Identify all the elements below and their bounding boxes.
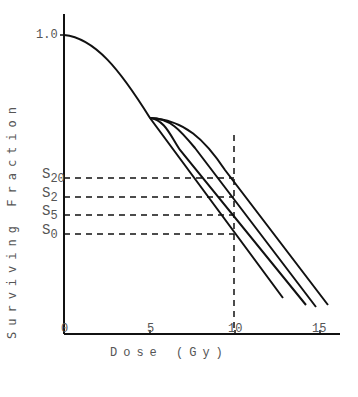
s2-label: S2 (42, 185, 58, 205)
y-tick-label-1: 1.0 (36, 28, 58, 42)
s20-label: S20 (42, 166, 65, 186)
s0-label: S0 (42, 222, 58, 242)
curve-s2 (150, 118, 316, 307)
x-tick-label-15: 15 (312, 322, 326, 336)
curve-s0 (64, 35, 283, 298)
x-axis-title: Dose (Gy) (110, 346, 229, 360)
y-axis-title-text: Surviving Fraction (5, 101, 19, 339)
curve-s5 (150, 118, 306, 305)
x-tick-label-0: 0 (61, 322, 68, 336)
x-tick-label-10: 10 (228, 322, 242, 336)
x-tick-label-5: 5 (147, 322, 154, 336)
y-axis-title: Surviving Fraction (2, 120, 22, 320)
s5-label: S5 (42, 203, 58, 223)
